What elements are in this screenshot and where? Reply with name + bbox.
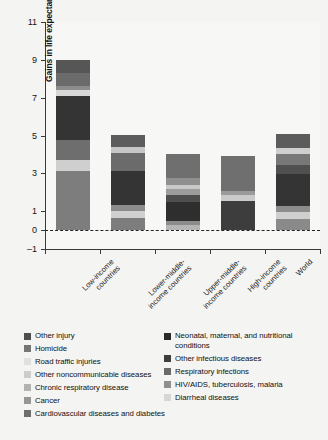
bar-segment bbox=[276, 219, 310, 230]
x-tick-mark bbox=[265, 249, 266, 254]
bar-segment bbox=[276, 154, 310, 164]
x-tick-mark bbox=[155, 249, 156, 254]
legend-item[interactable]: Neonatal, maternal, and nutritional cond… bbox=[164, 331, 324, 350]
y-tick-mark bbox=[41, 173, 45, 174]
bar-segment bbox=[166, 195, 200, 202]
category-label-5: World bbox=[294, 258, 314, 278]
chart-legend: Other injuryHomicideRoad traffic injurie… bbox=[0, 331, 328, 432]
y-tick-label: 11 bbox=[0, 18, 37, 27]
bar-segment bbox=[56, 96, 90, 140]
bar-1[interactable] bbox=[56, 59, 90, 230]
y-tick-label: 5 bbox=[0, 131, 37, 140]
bar-segment bbox=[56, 60, 90, 73]
legend-label: Road traffic injuries bbox=[35, 357, 101, 367]
legend-swatch-icon bbox=[24, 410, 31, 417]
legend-swatch-icon bbox=[24, 345, 31, 352]
legend-swatch-icon bbox=[24, 397, 31, 404]
bar-segment bbox=[111, 171, 145, 205]
legend-item[interactable]: Cardiovascular diseases and diabetes bbox=[24, 409, 179, 419]
legend-swatch-icon bbox=[164, 394, 171, 401]
bar-segment bbox=[56, 73, 90, 86]
bar-segment bbox=[276, 212, 310, 219]
legend-item[interactable]: Road traffic injuries bbox=[24, 357, 179, 367]
bar-segment bbox=[111, 218, 145, 230]
legend-column-left: Other injuryHomicideRoad traffic injurie… bbox=[24, 331, 179, 422]
bar-segment bbox=[166, 154, 200, 178]
legend-swatch-icon bbox=[24, 371, 31, 378]
chart-figure: Gains in life expectancy (years) 1197531… bbox=[0, 0, 328, 440]
bar-5[interactable] bbox=[276, 134, 310, 230]
legend-swatch-icon bbox=[24, 358, 31, 365]
legend-label: Respiratory infections bbox=[175, 367, 249, 377]
bar-segment bbox=[56, 140, 90, 160]
bar-segment bbox=[111, 211, 145, 218]
bar-segment bbox=[166, 225, 200, 230]
legend-item[interactable]: Other injury bbox=[24, 331, 179, 341]
legend-item[interactable]: Chronic respiratory disease bbox=[24, 383, 179, 393]
legend-label: Neonatal, maternal, and nutritional cond… bbox=[175, 331, 324, 350]
legend-item[interactable]: Homicide bbox=[24, 344, 179, 354]
y-tick-mark bbox=[41, 136, 45, 137]
legend-swatch-icon bbox=[164, 355, 171, 362]
y-tick-label: –1 bbox=[0, 245, 37, 254]
bar-segment bbox=[276, 148, 310, 155]
legend-item[interactable]: Other infectious diseases bbox=[164, 354, 324, 364]
legend-column-right: Neonatal, maternal, and nutritional cond… bbox=[164, 331, 324, 406]
legend-swatch-icon bbox=[24, 333, 31, 340]
bar-segment bbox=[276, 165, 310, 174]
bar-segment bbox=[56, 171, 90, 231]
y-tick-mark bbox=[41, 60, 45, 61]
y-tick-label: 7 bbox=[0, 93, 37, 102]
category-label-3: Upper-middle-income countries bbox=[195, 258, 248, 311]
bar-4[interactable] bbox=[221, 156, 255, 230]
legend-swatch-icon bbox=[164, 368, 171, 375]
bar-segment bbox=[221, 201, 255, 230]
legend-label: Cancer bbox=[35, 396, 60, 406]
x-tick-mark bbox=[100, 249, 101, 254]
legend-label: Other infectious diseases bbox=[175, 354, 261, 364]
category-label-2: Lower-middle-income countries bbox=[140, 258, 193, 311]
legend-item[interactable]: Diarrheal diseases bbox=[164, 393, 324, 403]
bar-segment bbox=[111, 153, 145, 171]
bar-segment bbox=[111, 147, 145, 154]
legend-label: Diarrheal diseases bbox=[175, 393, 239, 403]
bar-segment bbox=[166, 178, 200, 185]
y-tick-label: 9 bbox=[0, 55, 37, 64]
legend-swatch-icon bbox=[164, 333, 171, 340]
y-tick-label: 0 bbox=[0, 226, 37, 235]
legend-item[interactable]: Respiratory infections bbox=[164, 367, 324, 377]
x-tick-mark bbox=[45, 249, 46, 254]
legend-item[interactable]: Other noncommunicable diseases bbox=[24, 370, 179, 380]
y-tick-label: 3 bbox=[0, 169, 37, 178]
legend-label: Other injury bbox=[35, 331, 75, 341]
y-tick-mark bbox=[41, 211, 45, 212]
bar-3[interactable] bbox=[166, 154, 200, 230]
y-tick-label: 1 bbox=[0, 207, 37, 216]
category-label-1: Low-incomecountries bbox=[80, 258, 121, 299]
legend-item[interactable]: Cancer bbox=[24, 396, 179, 406]
y-tick-mark bbox=[41, 98, 45, 99]
bar-segment bbox=[111, 135, 145, 147]
legend-item[interactable]: HIV/AIDS, tuberculosis, malaria bbox=[164, 380, 324, 390]
legend-swatch-icon bbox=[164, 381, 171, 388]
bar-segment bbox=[276, 174, 310, 206]
bar-segment bbox=[221, 156, 255, 192]
category-label-4: High-incomecountries bbox=[246, 258, 288, 300]
legend-label: Chronic respiratory disease bbox=[35, 383, 129, 393]
y-tick-mark bbox=[41, 22, 45, 23]
category-label-line: World bbox=[294, 258, 314, 278]
legend-label: Cardiovascular diseases and diabetes bbox=[35, 409, 165, 419]
legend-swatch-icon bbox=[24, 384, 31, 391]
zero-reference-line bbox=[45, 230, 320, 231]
legend-label: HIV/AIDS, tuberculosis, malaria bbox=[175, 380, 283, 390]
bar-2[interactable] bbox=[111, 135, 145, 230]
x-axis-line bbox=[45, 249, 321, 250]
x-tick-mark bbox=[320, 249, 321, 254]
bar-segment bbox=[166, 202, 200, 221]
legend-label: Homicide bbox=[35, 344, 67, 354]
x-tick-mark bbox=[210, 249, 211, 254]
legend-label: Other noncommunicable diseases bbox=[35, 370, 151, 380]
bar-segment bbox=[276, 134, 310, 148]
bar-segment bbox=[56, 160, 90, 170]
